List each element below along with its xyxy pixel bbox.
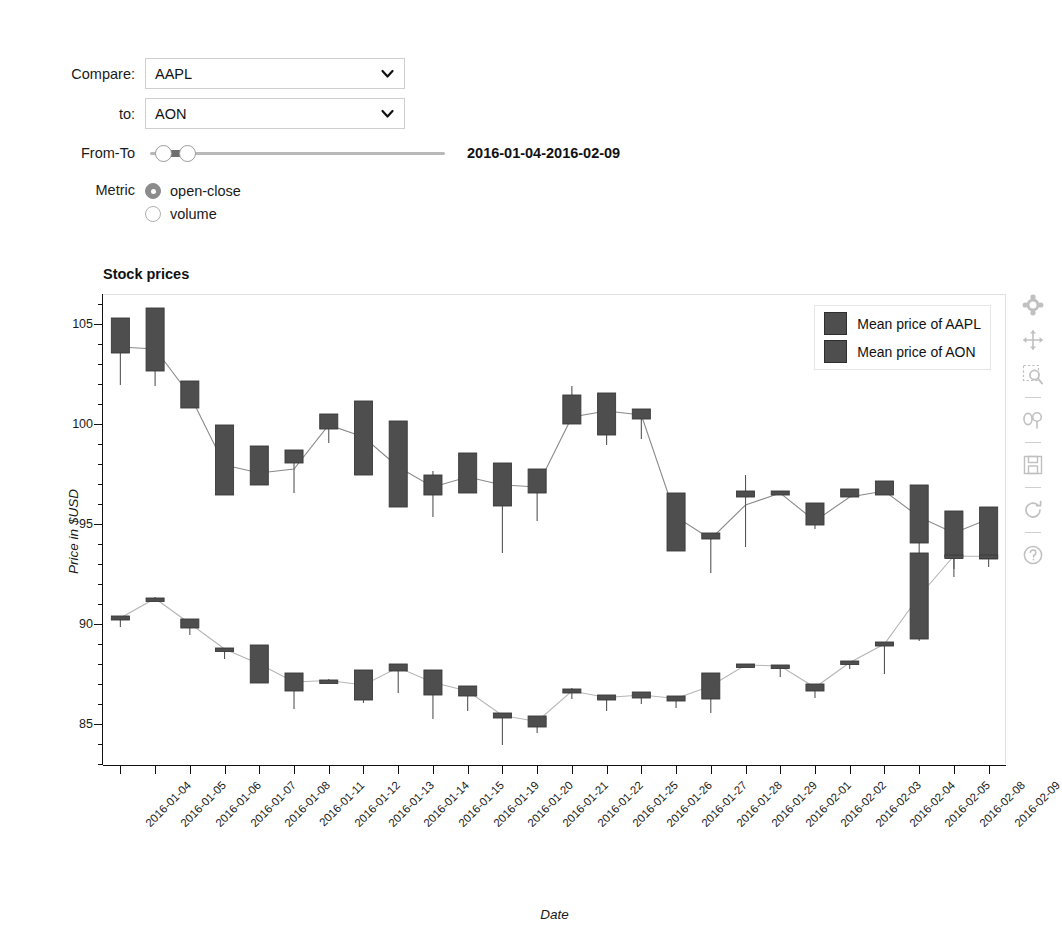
date-range-value: 2016-01-04-2016-02-09 xyxy=(467,145,620,161)
x-tick xyxy=(954,765,955,774)
legend-swatch-icon xyxy=(824,340,847,363)
x-tick xyxy=(433,765,434,774)
legend-label: Mean price of AAPL xyxy=(857,316,981,332)
x-axis-line xyxy=(103,765,1006,766)
legend-item-aapl[interactable]: Mean price of AAPL xyxy=(824,312,981,335)
bokeh-toolbar xyxy=(1013,292,1053,568)
toolbar-divider xyxy=(1025,487,1041,488)
compare-row: Compare: AAPL xyxy=(55,58,405,89)
reset-icon[interactable] xyxy=(1020,497,1046,523)
metric-label: Metric xyxy=(55,182,145,198)
box-zoom-icon[interactable] xyxy=(1020,362,1046,388)
stock-price-chart: Stock prices Price in $USD 859095100105 … xyxy=(55,258,1055,918)
bokeh-logo-icon[interactable] xyxy=(1020,292,1046,318)
metric-option-open-close[interactable]: open-close xyxy=(145,183,241,199)
y-tick-label: 85 xyxy=(79,717,93,731)
to-select[interactable]: AON xyxy=(145,98,405,129)
x-tick xyxy=(329,765,330,774)
pan-move-icon[interactable] xyxy=(1020,327,1046,353)
y-axis: Price in $USD 859095100105 xyxy=(55,294,103,765)
date-range-slider[interactable] xyxy=(145,138,445,168)
from-to-label: From-To xyxy=(55,145,145,161)
x-tick xyxy=(363,765,364,774)
chevron-down-icon xyxy=(380,66,395,81)
chart-title: Stock prices xyxy=(103,266,189,282)
plot-area[interactable]: Mean price of AAPL Mean price of AON xyxy=(103,294,1006,764)
legend-item-aon[interactable]: Mean price of AON xyxy=(824,340,981,363)
compare-select-value: AAPL xyxy=(155,66,192,82)
x-tick xyxy=(850,765,851,774)
x-tick xyxy=(398,765,399,774)
x-axis-label: Date xyxy=(103,907,1006,922)
chevron-down-icon xyxy=(380,106,395,121)
legend-swatch-icon xyxy=(824,312,847,335)
to-row: to: AON xyxy=(55,98,405,129)
slider-handle-from[interactable] xyxy=(155,145,172,162)
x-tick xyxy=(537,765,538,774)
compare-label: Compare: xyxy=(55,66,145,82)
x-tick xyxy=(607,765,608,774)
to-select-value: AON xyxy=(155,106,186,122)
toolbar-divider xyxy=(1025,442,1041,443)
x-tick xyxy=(120,765,121,774)
y-axis-label: Price in $USD xyxy=(66,452,81,612)
metric-option-label: open-close xyxy=(170,183,241,199)
x-tick xyxy=(155,765,156,774)
to-label: to: xyxy=(55,106,145,122)
x-tick xyxy=(676,765,677,774)
x-tick xyxy=(225,765,226,774)
x-tick xyxy=(294,765,295,774)
save-icon[interactable] xyxy=(1020,452,1046,478)
metric-row: Metric open-close volume xyxy=(55,182,241,222)
x-tick xyxy=(884,765,885,774)
metric-radio-group: open-close volume xyxy=(145,182,241,222)
controls-panel: Compare: AAPL to: AON From-To 2016-01-04… xyxy=(0,0,1055,250)
x-tick xyxy=(780,765,781,774)
x-tick xyxy=(711,765,712,774)
date-range-row: From-To 2016-01-04-2016-02-09 xyxy=(55,138,620,168)
toolbar-divider xyxy=(1025,397,1041,398)
help-icon[interactable] xyxy=(1020,542,1046,568)
x-tick xyxy=(919,765,920,774)
x-tick xyxy=(746,765,747,774)
x-tick xyxy=(815,765,816,774)
x-tick xyxy=(468,765,469,774)
compare-select[interactable]: AAPL xyxy=(145,58,405,89)
x-tick xyxy=(989,765,990,774)
x-tick xyxy=(502,765,503,774)
chart-legend: Mean price of AAPL Mean price of AON xyxy=(814,305,991,370)
x-tick xyxy=(190,765,191,774)
toolbar-divider xyxy=(1025,532,1041,533)
slider-handle-to[interactable] xyxy=(179,145,196,162)
metric-option-volume[interactable]: volume xyxy=(145,206,241,222)
x-axis: Date 2016-01-042016-01-052016-01-062016-… xyxy=(103,765,1006,925)
x-tick xyxy=(641,765,642,774)
x-tick xyxy=(572,765,573,774)
x-tick xyxy=(259,765,260,774)
radio-checked-icon[interactable] xyxy=(145,183,161,199)
wheel-zoom-icon[interactable] xyxy=(1020,407,1046,433)
y-tick-label: 90 xyxy=(79,617,93,631)
metric-option-label: volume xyxy=(170,206,217,222)
radio-unchecked-icon[interactable] xyxy=(145,206,161,222)
y-tick-label: 105 xyxy=(72,317,93,331)
y-tick-label: 100 xyxy=(72,417,93,431)
legend-label: Mean price of AON xyxy=(857,344,975,360)
y-tick-label: 95 xyxy=(79,517,93,531)
